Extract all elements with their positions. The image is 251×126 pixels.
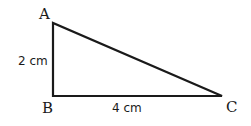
vertex-a-label: A	[38, 5, 50, 23]
vertex-c-label: C	[226, 98, 237, 116]
vertex-b-label: B	[42, 99, 53, 117]
triangle-diagram: A B C 2 cm 4 cm	[0, 0, 251, 126]
triangle-abc	[53, 23, 222, 96]
side-ab-length: 2 cm	[18, 54, 48, 68]
side-bc-length: 4 cm	[112, 101, 142, 115]
